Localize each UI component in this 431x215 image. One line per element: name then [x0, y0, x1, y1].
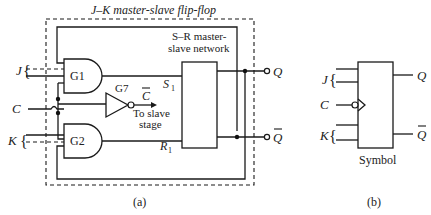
symbol-block: [358, 62, 393, 148]
qbar-terminal: [264, 134, 269, 139]
junction-dot: [235, 135, 239, 139]
r1-sub: 1: [168, 146, 172, 155]
symbol-label: Symbol: [359, 153, 397, 167]
figure-b: J { C K { Q Q Symbol (b): [319, 62, 427, 209]
junction-dot: [56, 97, 60, 101]
q-output-label: Q: [273, 64, 283, 79]
symbol-q-label: Q: [417, 68, 427, 83]
sr-network-block: [182, 62, 217, 148]
symbol-c-label: C: [320, 97, 329, 112]
symbol-clock-bubble: [352, 102, 358, 108]
network-label-2: slave network: [168, 42, 230, 54]
symbol-qbar-label: Q: [417, 127, 427, 142]
figure-a-title: J–K master-slave flip-flop: [91, 3, 216, 17]
junction-dot: [56, 111, 60, 115]
input-j-label: J: [16, 63, 23, 78]
g1-label: G1: [70, 69, 85, 83]
inverter-g7: [106, 93, 128, 117]
brace-j: {: [23, 63, 31, 80]
symbol-j-label: J: [322, 72, 329, 87]
q-terminal: [264, 68, 269, 73]
figure-a-caption: (a): [133, 195, 146, 209]
network-label-1: S–R master-: [172, 30, 227, 42]
jk-flip-flop-diagram: J–K master-slave flip-flop J { G1 C G7 C: [0, 0, 431, 215]
qbar-output-label: Q: [273, 130, 283, 145]
s1-label: S: [163, 77, 169, 91]
figure-a: J–K master-slave flip-flop J { G1 C G7 C: [7, 3, 283, 209]
to-slave-line2: stage: [139, 118, 162, 130]
symbol-brace-k: {: [329, 128, 337, 145]
c-bar-label: C: [142, 89, 151, 103]
s1-sub: 1: [171, 84, 175, 93]
g2-label: G2: [70, 134, 85, 148]
input-k-label: K: [7, 133, 18, 148]
junction-dot: [243, 69, 247, 73]
input-c-label: C: [12, 101, 21, 116]
r1-label: R: [159, 139, 168, 153]
figure-b-caption: (b): [367, 195, 381, 209]
symbol-brace-j: {: [329, 72, 337, 89]
g7-label: G7: [115, 82, 129, 94]
